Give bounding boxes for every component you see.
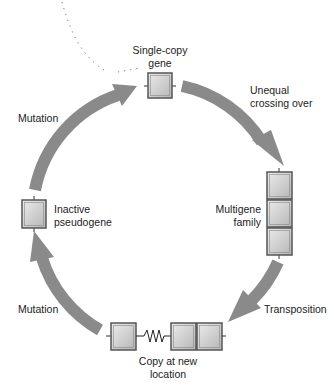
pseudogene-box <box>22 196 46 232</box>
single-copy-gene-label: Single-copy gene <box>128 44 192 70</box>
unequal-label-line2: crossing over <box>250 97 312 110</box>
mutation-top-label: Mutation <box>18 112 58 125</box>
copy-label-line1: Copy at new <box>128 355 208 368</box>
arrow-mutation-top <box>35 84 137 190</box>
intervening-dna-zigzag <box>136 330 171 342</box>
multigene-label-line2: family <box>196 216 261 229</box>
single-copy-label-line2: gene <box>128 57 192 70</box>
unequal-crossing-over-label: Unequal crossing over <box>250 84 312 110</box>
transposition-label: Transposition <box>264 303 327 316</box>
single-copy-label-line1: Single-copy <box>128 44 192 57</box>
pseudogene-label-line2: pseudogene <box>54 216 112 229</box>
multigene-family-label: Multigene family <box>196 203 261 229</box>
single-copy-gene-box <box>144 73 176 98</box>
copy-at-new-location-label: Copy at new location <box>128 355 208 381</box>
multigene-label-line1: Multigene <box>196 203 261 216</box>
copy-label-line2: location <box>128 368 208 381</box>
inactive-pseudogene-label: Inactive pseudogene <box>54 203 112 229</box>
copy-at-new-location-boxes <box>106 323 226 350</box>
multigene-family-boxes <box>267 168 292 259</box>
pseudogene-label-line1: Inactive <box>54 203 112 216</box>
unequal-label-line1: Unequal <box>250 84 312 97</box>
mutation-bottom-label: Mutation <box>18 303 58 316</box>
